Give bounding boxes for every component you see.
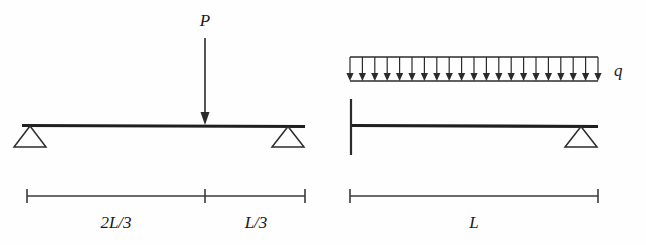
distributed-load-arrow-head	[371, 73, 378, 81]
distributed-load-arrow-head	[557, 73, 564, 81]
distributed-load-arrow-head	[495, 73, 502, 81]
distributed-load-arrow-head	[545, 73, 552, 81]
right-dimension-label-segment-1: L	[468, 213, 478, 232]
distributed-load-arrow-head	[396, 73, 403, 81]
distributed-load-arrow-head	[458, 73, 465, 81]
distributed-load-arrow-head	[408, 73, 415, 81]
right-beam-member	[350, 126, 598, 127]
point-load-arrow-head	[201, 112, 210, 125]
distributed-load-arrow-head	[483, 73, 490, 81]
left-dimension-label-segment-1: 2L/3	[100, 213, 131, 232]
distributed-load-arrow-head	[570, 73, 577, 81]
distributed-load-arrow-head	[594, 73, 601, 81]
distributed-load-arrow-head	[359, 73, 366, 81]
left-beam-panel: P 2L/3 L/3	[14, 11, 305, 232]
distributed-load-arrow-head	[421, 73, 428, 81]
beam-diagram-canvas: P 2L/3 L/3 q L	[0, 0, 646, 245]
distributed-load-label: q	[614, 61, 623, 80]
distributed-load-arrow-head	[532, 73, 539, 81]
distributed-load-arrow-head	[582, 73, 589, 81]
distributed-load-arrow-head	[520, 73, 527, 81]
distributed-load-arrow-head	[508, 73, 515, 81]
right-beam-panel: q L	[346, 57, 623, 232]
left-dimension-label-segment-2: L/3	[244, 213, 268, 232]
left-beam-support-left-triangle	[14, 126, 46, 147]
distributed-load-arrow-head	[384, 73, 391, 81]
point-load-label: P	[199, 11, 210, 30]
distributed-load-arrow-head	[433, 73, 440, 81]
distributed-load-arrow-head	[346, 73, 353, 81]
left-beam-member	[22, 126, 305, 127]
distributed-load-arrow-head	[470, 73, 477, 81]
right-beam-support-right-triangle	[565, 127, 597, 148]
beam-diagram-figure: P 2L/3 L/3 q L	[0, 0, 646, 245]
left-beam-support-right-triangle	[272, 127, 304, 148]
distributed-load-arrow-head	[446, 73, 453, 81]
distributed-load-arrow-group	[346, 57, 601, 81]
